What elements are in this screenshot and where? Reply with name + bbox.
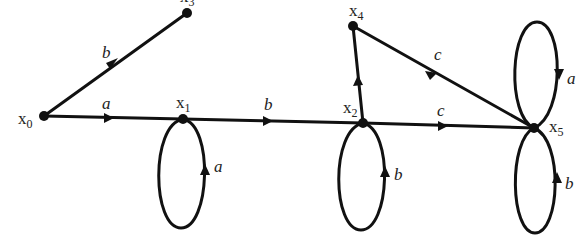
arrow-loop-x2 <box>380 166 390 177</box>
label-x5: x5 <box>549 117 564 139</box>
arrow-x1-x2 <box>263 116 273 126</box>
node-x0 <box>39 111 49 121</box>
edge-label-x0-x1: a <box>102 94 111 113</box>
loop-x5-up <box>515 22 557 128</box>
edge-label-x1-x2: b <box>264 95 273 114</box>
loop-x1 <box>159 119 205 228</box>
arrow-x0-x1 <box>104 113 114 123</box>
edge-label-x5-loop-up: a <box>567 69 576 88</box>
node-x1 <box>178 114 188 124</box>
edge-label-x5-loop-down: b <box>565 174 574 193</box>
node-x2 <box>358 118 368 128</box>
edge-x2-x5 <box>363 123 534 128</box>
label-x1: x1 <box>176 93 191 115</box>
arrow-x2-x4 <box>353 75 363 86</box>
loop-x5-down <box>515 128 555 233</box>
edge-label-x1-loop: a <box>214 157 223 176</box>
label-x4: x4 <box>349 1 364 23</box>
label-x2: x2 <box>343 98 358 120</box>
node-x3 <box>182 8 192 18</box>
edge-label-x0-x3: b <box>102 43 111 62</box>
label-x3: x3 <box>180 0 195 9</box>
state-graph: x0 x1 x2 x3 x4 x5 b a a b b c c a b <box>0 0 579 240</box>
node-x4 <box>348 21 358 31</box>
edge-label-x2-loop: b <box>394 165 403 184</box>
edge-label-x2-x5: c <box>437 101 445 120</box>
arrow-loop-x1 <box>200 164 210 175</box>
edge-x0-x1 <box>44 116 183 119</box>
node-x5 <box>529 123 539 133</box>
edge-x0-x3 <box>44 13 187 116</box>
label-x0: x0 <box>18 109 33 131</box>
loop-x2 <box>339 123 385 230</box>
edge-label-x4-x5: c <box>434 45 442 64</box>
arrow-x2-x5 <box>438 121 448 131</box>
